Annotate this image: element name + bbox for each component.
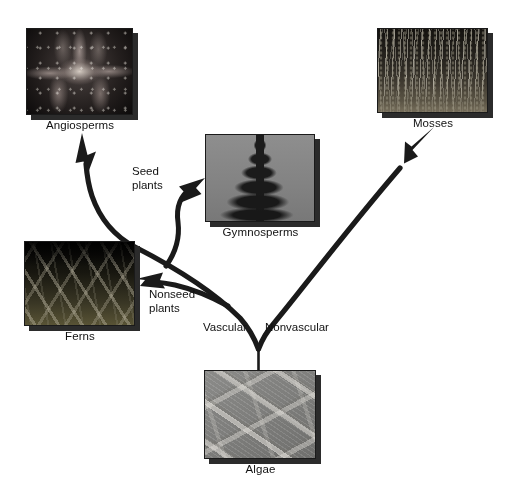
plant-evolution-diagram: Angiosperms Mosses Gymnosperms Ferns Alg… xyxy=(0,0,506,490)
node-algae: Algae xyxy=(204,370,317,478)
arrowhead-ferns xyxy=(136,273,165,289)
node-ferns: Ferns xyxy=(24,241,136,345)
arrowhead-gymnosperms xyxy=(179,178,205,203)
ferns-caption: Ferns xyxy=(65,330,95,342)
node-mosses: Mosses xyxy=(377,28,489,132)
arrowhead-mosses xyxy=(404,127,434,164)
edge-label-seed-plants: Seed plants xyxy=(132,165,163,192)
ferns-photo xyxy=(24,241,135,326)
edge-label-nonseed-plants: Nonseed plants xyxy=(149,288,195,315)
edge-label-vascular: Vascular xyxy=(203,321,247,335)
algae-photo xyxy=(204,370,316,459)
node-gymnosperms: Gymnosperms xyxy=(205,134,316,240)
mosses-photo xyxy=(377,28,488,113)
arrowhead-angiosperms xyxy=(76,133,97,173)
arrow-to-gymnosperms xyxy=(166,188,191,266)
algae-caption: Algae xyxy=(246,463,276,475)
angiosperms-caption: Angiosperms xyxy=(46,119,114,131)
gymnosperms-photo xyxy=(205,134,315,222)
mosses-caption: Mosses xyxy=(413,117,453,129)
edge-label-nonvascular: Nonvascular xyxy=(265,321,329,335)
gymnosperms-caption: Gymnosperms xyxy=(223,226,299,238)
angiosperms-photo xyxy=(26,28,133,115)
node-angiosperms: Angiosperms xyxy=(26,28,134,134)
